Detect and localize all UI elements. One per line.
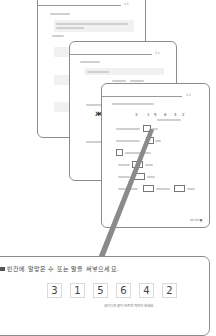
digit-card: 3 bbox=[47, 283, 62, 298]
question-text bbox=[50, 13, 70, 15]
instruction: 빈칸에 알맞은 수 또는 말을 써넣으세요. bbox=[0, 264, 119, 273]
page-number: 3 1 bbox=[186, 93, 191, 97]
question-text bbox=[56, 27, 84, 29]
digit-card: 5 bbox=[93, 283, 108, 298]
question-text bbox=[87, 71, 109, 73]
question-text bbox=[116, 140, 140, 142]
question-text bbox=[118, 176, 130, 178]
instruction-text: 빈칸에 알맞은 수 또는 말을 써넣으세요. bbox=[7, 265, 119, 272]
zoomed-question-card: 빈칸에 알맞은 수 또는 말을 써넣으세요. 3 1 5 6 4 2 (보기)와… bbox=[0, 256, 210, 336]
question-text bbox=[112, 103, 154, 105]
question-text bbox=[86, 104, 102, 106]
answer-box bbox=[132, 161, 143, 168]
worksheet-page-front: 3 1 3 1 5 6 4 2 00 00 ■ bbox=[101, 83, 210, 228]
answer-box bbox=[116, 149, 123, 156]
digit-cards: 3 1 5 6 4 2 bbox=[47, 283, 177, 298]
figure-label bbox=[130, 80, 144, 82]
question-text bbox=[187, 188, 195, 190]
question-text bbox=[118, 188, 138, 190]
page-number: 3 1 bbox=[155, 51, 160, 55]
digit: 5 bbox=[154, 112, 157, 117]
note-text bbox=[157, 119, 181, 121]
question-box bbox=[54, 20, 134, 32]
question-text bbox=[147, 176, 155, 178]
question-text bbox=[125, 152, 151, 154]
digit: 4 bbox=[174, 112, 177, 117]
header-rule bbox=[102, 96, 182, 97]
question-text bbox=[116, 128, 140, 130]
digit-card: 2 bbox=[162, 283, 177, 298]
question-text bbox=[56, 23, 128, 25]
answer-box bbox=[143, 185, 154, 192]
question-text bbox=[118, 164, 130, 166]
answer-box bbox=[146, 137, 154, 144]
question-text bbox=[52, 35, 64, 37]
note-text: (보기)와 같이 바르게 짝지어 보세요. bbox=[104, 303, 154, 308]
answer-box bbox=[174, 185, 185, 192]
question-text bbox=[145, 164, 153, 166]
digit: 3 bbox=[135, 112, 138, 117]
header-rule bbox=[38, 5, 121, 6]
digit-card: 6 bbox=[116, 283, 131, 298]
digit: 1 bbox=[147, 112, 150, 117]
digit-card: 4 bbox=[139, 283, 154, 298]
question-text bbox=[80, 61, 100, 63]
digit: 6 bbox=[164, 112, 167, 117]
question-text bbox=[156, 188, 170, 190]
answer-box bbox=[143, 125, 151, 132]
figure-label bbox=[112, 80, 126, 82]
digit-card: 1 bbox=[70, 283, 85, 298]
question-text bbox=[86, 141, 102, 143]
header-rule bbox=[70, 54, 152, 55]
digit: 2 bbox=[182, 112, 185, 117]
question-text bbox=[155, 140, 161, 142]
question-text bbox=[152, 128, 158, 130]
question-marker-icon bbox=[0, 267, 5, 271]
page-number: 3 1 bbox=[124, 2, 129, 6]
page-footer: 00 00 ■ bbox=[190, 218, 202, 222]
answer-box bbox=[134, 173, 145, 180]
